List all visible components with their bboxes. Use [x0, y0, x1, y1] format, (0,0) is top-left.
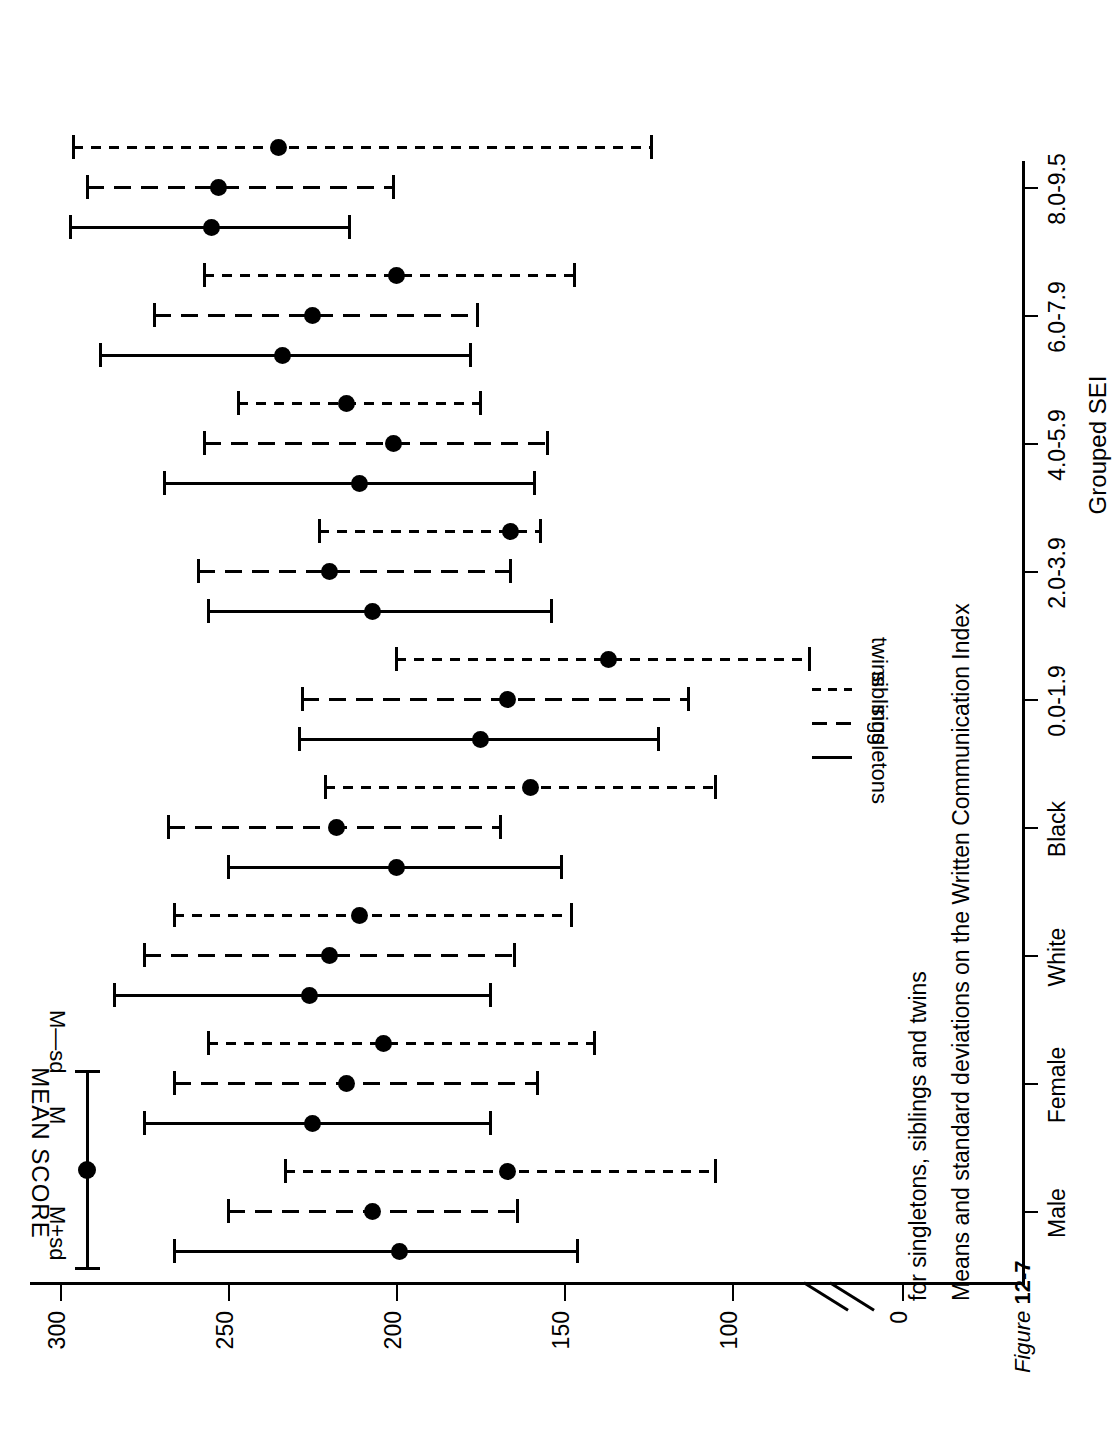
mean-marker	[499, 691, 516, 708]
score-axis-tick-label: 300	[44, 1311, 71, 1381]
error-bar-cap-upper	[143, 1111, 146, 1135]
error-bar-cap-upper	[173, 1239, 176, 1263]
category-axis-tick-label: 8.0-9.5	[1044, 119, 1071, 259]
error-bar-line	[208, 1042, 594, 1045]
error-bar-cap-lower	[546, 431, 549, 455]
mean-marker	[304, 1115, 321, 1132]
error-bar-line	[73, 146, 651, 149]
error-bar-cap-upper	[395, 647, 398, 671]
mean-marker	[385, 435, 402, 452]
mean-marker	[472, 731, 489, 748]
error-bar-cap-upper	[143, 943, 146, 967]
key-mean-marker	[78, 1161, 96, 1179]
mean-marker	[321, 563, 338, 580]
error-bar-cap-upper	[113, 983, 116, 1007]
error-bar-cap-lower	[489, 983, 492, 1007]
error-bar-cap-upper	[197, 559, 200, 583]
key-label-lower: M—sd	[44, 1010, 70, 1074]
score-axis-line	[30, 1282, 1022, 1285]
mean-marker	[203, 219, 220, 236]
error-bar-line	[325, 786, 715, 789]
score-axis-tick-label: 250	[212, 1311, 239, 1381]
error-bar-cap-lower	[687, 687, 690, 711]
score-axis-tick-label: 200	[380, 1311, 407, 1381]
mean-marker	[600, 651, 617, 668]
error-bar-line	[174, 1082, 537, 1085]
error-bar-line	[174, 1250, 577, 1253]
category-axis-tick-label: Black	[1044, 759, 1071, 899]
score-axis-tick	[902, 1285, 904, 1301]
category-axis-tick	[1022, 1083, 1038, 1085]
error-bar-cap-lower	[550, 599, 553, 623]
error-bar-cap-lower	[573, 263, 576, 287]
category-axis-tick	[1022, 827, 1038, 829]
error-bar-cap-upper	[167, 815, 170, 839]
error-bar-cap-lower	[560, 855, 563, 879]
error-bar-cap-lower	[499, 815, 502, 839]
error-bar-cap-upper	[227, 855, 230, 879]
error-bar-line	[198, 570, 510, 573]
error-bar-cap-upper	[298, 727, 301, 751]
category-axis-line	[1022, 161, 1025, 1285]
category-axis-tick	[1022, 955, 1038, 957]
error-bar-cap-lower	[714, 775, 717, 799]
legend-swatch-siblings	[812, 722, 852, 725]
mean-marker	[502, 523, 519, 540]
error-bar-cap-lower	[593, 1031, 596, 1055]
error-bar-cap-lower	[657, 727, 660, 751]
mean-marker	[351, 475, 368, 492]
error-bar-cap-upper	[173, 903, 176, 927]
mean-marker	[522, 779, 539, 796]
key-label-upper: M+sd	[44, 1206, 70, 1260]
error-bar-line	[302, 698, 688, 701]
category-axis-tick-label: White	[1044, 887, 1071, 1027]
category-axis-tick-label: Female	[1044, 1015, 1071, 1155]
category-axis-tick	[1022, 699, 1038, 701]
mean-marker	[274, 347, 291, 364]
key-label-mid: M	[44, 1106, 70, 1124]
error-bar-line	[238, 402, 480, 405]
error-bar-cap-lower	[513, 943, 516, 967]
error-bar-cap-lower	[476, 303, 479, 327]
category-axis-tick	[1022, 571, 1038, 573]
error-bar-cap-lower	[576, 1239, 579, 1263]
mean-marker	[375, 1035, 392, 1052]
mean-marker	[499, 1163, 516, 1180]
key-cap-lower	[75, 1070, 100, 1073]
category-axis-tick-label: 0.0-1.9	[1044, 631, 1071, 771]
error-bar-cap-lower	[516, 1199, 519, 1223]
error-bar-cap-lower	[650, 135, 653, 159]
x-axis-title: Grouped SEI	[1084, 375, 1112, 515]
error-bar-cap-upper	[69, 215, 72, 239]
mean-marker	[388, 859, 405, 876]
error-bar-cap-upper	[227, 1199, 230, 1223]
error-bar-cap-lower	[808, 647, 811, 671]
mean-marker	[391, 1243, 408, 1260]
score-axis-tick	[732, 1285, 734, 1301]
score-axis-break-mark	[803, 1281, 849, 1311]
category-axis-tick	[1022, 443, 1038, 445]
legend-swatch-singletons	[812, 756, 852, 759]
mean-marker	[364, 603, 381, 620]
mean-marker	[364, 1203, 381, 1220]
error-bar-cap-lower	[489, 1111, 492, 1135]
key-cap-upper	[75, 1267, 100, 1270]
mean-marker	[338, 1075, 355, 1092]
error-bar-cap-lower	[479, 391, 482, 415]
score-axis-tick-label: 150	[548, 1311, 575, 1381]
legend-label-twins: twins	[866, 637, 892, 737]
category-axis-tick	[1022, 315, 1038, 317]
error-bar-cap-upper	[163, 471, 166, 495]
score-axis-break-mark	[829, 1281, 875, 1311]
error-bar-cap-upper	[203, 431, 206, 455]
error-bar-cap-upper	[284, 1159, 287, 1183]
category-axis-tick-label: 6.0-7.9	[1044, 247, 1071, 387]
error-bar-cap-upper	[237, 391, 240, 415]
error-bar-cap-upper	[153, 303, 156, 327]
error-bar-cap-upper	[86, 175, 89, 199]
error-bar-line	[87, 186, 393, 189]
error-bar-cap-lower	[469, 343, 472, 367]
error-bar-cap-lower	[509, 559, 512, 583]
